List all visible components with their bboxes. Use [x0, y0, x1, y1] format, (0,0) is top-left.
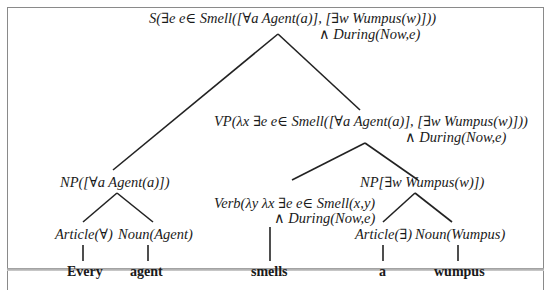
- node-s-label: S(∃e e∈ Smell([∀a Agent(a)], [∃w Wumpus(…: [149, 10, 436, 26]
- node-verb-continuation: ∧ During(Now,e): [274, 210, 375, 227]
- edge-np-right-noun: [415, 193, 452, 222]
- node-s-label-2: ∧ During(Now,e): [319, 26, 420, 42]
- word-agent-label: agent: [130, 264, 163, 279]
- node-np-left: NP([∀a Agent(a)]): [60, 174, 170, 191]
- word-every: Every: [67, 264, 103, 280]
- node-np-right: NP[∃w Wumpus(w)]): [360, 174, 484, 191]
- node-verb-label: Verb(λy λx ∃e e∈ Smell(x,y): [214, 195, 375, 211]
- word-smells-label: smells: [251, 264, 288, 279]
- word-every-label: Every: [67, 264, 103, 279]
- word-a: a: [379, 264, 386, 280]
- edge-np-right-article: [383, 193, 415, 222]
- node-article-every-label: Article(∀): [55, 226, 113, 242]
- edge-np-left-article: [83, 193, 117, 222]
- node-s: S(∃e e∈ Smell([∀a Agent(a)], [∃w Wumpus(…: [149, 10, 436, 27]
- edge-s-np-left: [113, 34, 278, 170]
- node-noun-wumpus-label: Noun(Wumpus): [415, 226, 505, 242]
- word-agent: agent: [130, 264, 163, 280]
- node-verb-label-2: ∧ During(Now,e): [274, 210, 375, 226]
- node-vp-label: VP(λx ∃e e∈ Smell([∀a Agent(a)], [∃w Wum…: [214, 113, 528, 129]
- node-vp-continuation: ∧ During(Now,e): [405, 129, 506, 146]
- word-wumpus-label: wumpus: [434, 264, 485, 279]
- edge-np-left-noun: [117, 193, 153, 222]
- node-noun-wumpus: Noun(Wumpus): [415, 226, 505, 243]
- node-noun-agent-label: Noun(Agent): [118, 226, 193, 242]
- node-np-right-label: NP[∃w Wumpus(w)]): [360, 174, 484, 190]
- node-np-left-label: NP([∀a Agent(a)]): [60, 174, 170, 190]
- word-smells: smells: [251, 264, 288, 280]
- node-vp-label-2: ∧ During(Now,e): [405, 129, 506, 145]
- word-wumpus: wumpus: [434, 264, 485, 280]
- node-article-every: Article(∀): [55, 226, 113, 243]
- word-a-label: a: [379, 264, 386, 279]
- node-article-a-label: Article(∃): [355, 226, 412, 242]
- edge-s-vp: [278, 34, 360, 110]
- edge-vp-verb: [292, 143, 365, 180]
- node-vp: VP(λx ∃e e∈ Smell([∀a Agent(a)], [∃w Wum…: [214, 113, 528, 130]
- node-article-a: Article(∃): [355, 226, 412, 243]
- node-noun-agent: Noun(Agent): [118, 226, 193, 243]
- node-s-continuation: ∧ During(Now,e): [319, 26, 420, 43]
